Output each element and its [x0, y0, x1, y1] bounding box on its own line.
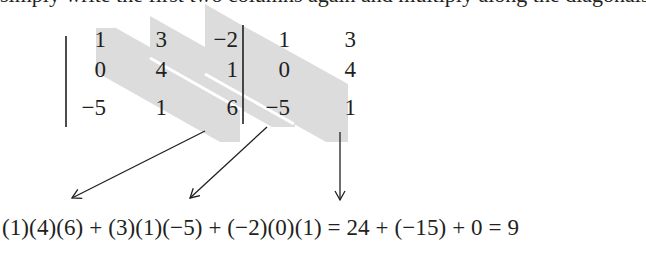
matrix-cell-r1c3: −2	[198, 27, 238, 53]
matrix-cell-r2c1: 0	[66, 57, 106, 83]
determinant-equation: (1)(4)(6) + (3)(1)(−5) + (−2)(0)(1) = 24…	[2, 214, 519, 242]
matrix-cell-r3c1: −5	[66, 95, 106, 121]
matrix-cell-r1c1: 1	[66, 27, 106, 53]
repeated-cell-r1c2: 3	[316, 27, 356, 53]
matrix-cell-r2c3: 1	[198, 57, 238, 83]
matrix-cell-r3c3: 6	[198, 95, 238, 121]
matrix-cell-r1c2: 3	[127, 27, 167, 53]
arrow-diagonal-1	[72, 131, 205, 198]
matrix-cell-r3c2: 1	[127, 95, 167, 121]
repeated-cell-r3c1: −5	[250, 95, 290, 121]
repeated-cell-r2c1: 0	[250, 57, 290, 83]
repeated-cell-r2c2: 4	[316, 57, 356, 83]
matrix-cell-r2c2: 4	[127, 57, 167, 83]
repeated-cell-r3c2: 1	[316, 95, 356, 121]
repeated-cell-r1c1: 1	[250, 27, 290, 53]
